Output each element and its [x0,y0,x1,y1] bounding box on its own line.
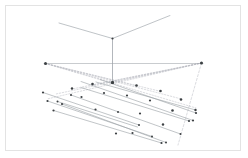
line-endpoint-node [188,120,190,122]
node-markers-layer [42,37,203,144]
grid-intersection-node [149,99,151,101]
construction-ray-left-vp [46,64,182,100]
grid-intersection-node [71,87,73,89]
line-endpoint-node [180,133,182,135]
grid-intersection-node [180,98,183,101]
line-endpoint-node [115,132,117,134]
line-endpoint-node [195,112,197,114]
grid-intersection-node [162,123,164,125]
vanishing-point-node [200,62,203,65]
line-endpoint-node [138,124,140,126]
line-endpoint-node [151,136,153,138]
grid-line-right-family [96,82,196,110]
grid-intersection-node [91,83,94,86]
grid-line-left-family [43,93,139,126]
grid-intersection-node [80,96,82,98]
grid-intersection-node [103,92,105,94]
grid-intersection-node [94,108,96,110]
vanishing-point-node [44,62,47,65]
line-endpoint-node [52,109,54,111]
construction-ray-left-vp [46,64,162,92]
mast-node [111,37,113,39]
grid-intersection-node [111,81,114,84]
construction-rays-layer [46,63,202,145]
diagram-canvas [0,0,248,158]
line-endpoint-node [192,119,194,121]
grid-intersection-node [135,84,138,87]
line-endpoint-node [160,142,162,144]
grid-intersection-node [159,90,162,93]
perspective-diagram [0,0,248,158]
line-endpoint-node [57,101,59,103]
grid-line-left-family [54,111,162,144]
upper-arm-line [113,16,171,39]
construction-ray-right-vp [47,63,202,99]
line-endpoint-node [70,94,72,96]
grid-intersection-node [171,109,174,112]
line-endpoint-node [46,100,48,102]
grid-intersection-node [117,111,119,113]
line-endpoint-node [61,103,63,105]
grid-intersection-node [139,112,141,114]
line-endpoint-node [165,142,167,144]
upper-arm-line [59,23,113,39]
grid-intersection-node [126,94,128,96]
line-endpoint-node [42,91,44,93]
construction-ray-left-vp [46,64,138,87]
line-endpoint-node [131,132,133,134]
line-endpoint-node [194,109,196,111]
